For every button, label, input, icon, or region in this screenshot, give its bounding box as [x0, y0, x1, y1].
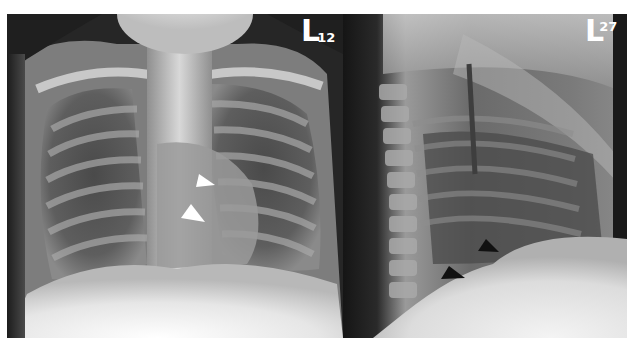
lateral-chest-image	[343, 14, 627, 338]
side-marker-right: L27	[585, 16, 622, 46]
radiograph-figure: L12	[7, 14, 627, 338]
side-marker-left: L12	[301, 16, 338, 46]
frontal-chest-image	[7, 14, 343, 338]
frontal-radiograph-panel: L12	[7, 14, 343, 338]
lateral-radiograph-panel: L27	[343, 14, 627, 338]
